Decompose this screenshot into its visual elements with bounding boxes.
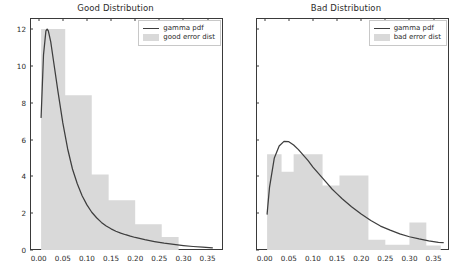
legend-bad: gamma pdf bad error dist <box>369 20 447 46</box>
legend-label: bad error dist <box>394 33 441 42</box>
y-tick-label: 10 <box>17 61 30 70</box>
panel-good: Good Distribution 0 2 4 6 8 10 1 <box>0 0 231 277</box>
x-tick-label: 0.35 <box>200 250 216 263</box>
x-tick-label: 0.35 <box>426 250 442 263</box>
y-tick-label: 12 <box>17 25 30 34</box>
x-tick-label: 0.20 <box>353 250 369 263</box>
x-tick-label: 0.10 <box>79 250 95 263</box>
histogram-bad <box>267 154 441 250</box>
x-tick-label: 0.00 <box>257 250 273 263</box>
legend-good: gamma pdf good error dist <box>138 20 221 46</box>
line-swatch-icon <box>143 28 159 29</box>
y-tick-label: 6 <box>21 135 30 144</box>
plot-area-good <box>30 18 223 250</box>
legend-entry-gamma-pdf: gamma pdf <box>374 24 441 33</box>
x-tick-label: 0.15 <box>329 250 345 263</box>
x-tick-label: 0.30 <box>175 250 191 263</box>
legend-entry-error-dist: bad error dist <box>374 33 441 42</box>
plot-area-bad <box>256 18 449 250</box>
y-tick-label: 4 <box>21 172 30 181</box>
panel-bad: Bad Distribution 0.00 0.05 <box>231 0 461 277</box>
histogram-good <box>41 29 179 250</box>
legend-label: gamma pdf <box>394 24 434 33</box>
axes-bad: 0.00 0.05 0.10 0.15 0.20 0.25 0.30 0.35 <box>256 18 449 250</box>
x-tick-label: 0.20 <box>127 250 143 263</box>
x-tick-label: 0.00 <box>31 250 47 263</box>
panel-title-good: Good Distribution <box>0 3 231 13</box>
panel-title-bad: Bad Distribution <box>231 3 461 13</box>
legend-entry-error-dist: good error dist <box>143 33 215 42</box>
legend-label: gamma pdf <box>163 24 203 33</box>
x-tick-label: 0.25 <box>151 250 167 263</box>
x-tick-label: 0.15 <box>103 250 119 263</box>
y-tick-label: 8 <box>21 98 30 107</box>
y-tick-label: 0 <box>21 246 30 255</box>
patch-swatch-icon <box>143 34 159 41</box>
legend-label: good error dist <box>163 33 215 42</box>
x-tick-label: 0.30 <box>401 250 417 263</box>
axes-good: 0 2 4 6 8 10 12 0.00 0.05 <box>30 18 223 250</box>
x-tick-label: 0.05 <box>281 250 297 263</box>
patch-swatch-icon <box>374 34 390 41</box>
x-tick-label: 0.05 <box>55 250 71 263</box>
y-tick-label: 2 <box>21 209 30 218</box>
x-tick-label: 0.25 <box>377 250 393 263</box>
figure-canvas: Good Distribution 0 2 4 6 8 10 1 <box>0 0 461 277</box>
x-tick-label: 0.10 <box>305 250 321 263</box>
line-swatch-icon <box>374 28 390 29</box>
legend-entry-gamma-pdf: gamma pdf <box>143 24 215 33</box>
